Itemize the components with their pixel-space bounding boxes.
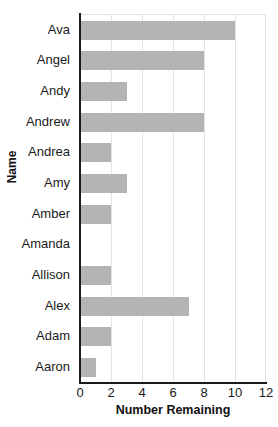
x-axis-tick-label: 8	[200, 385, 207, 400]
bar-row	[80, 322, 266, 353]
bar-row	[80, 352, 266, 383]
y-axis-tick-label: Alex	[0, 290, 76, 321]
x-axis-tick-label: 12	[259, 385, 273, 400]
bar-row	[80, 15, 266, 46]
plot-area	[80, 14, 266, 382]
bar-chart: Name AvaAngelAndyAndrewAndreaAmyAmberAma…	[0, 0, 278, 427]
bar-row	[80, 76, 266, 107]
bar	[80, 266, 111, 285]
bar-rows	[80, 15, 266, 383]
x-axis-line	[79, 382, 267, 384]
bar	[80, 297, 189, 316]
bar-row	[80, 199, 266, 230]
y-axis-tick-label: Amy	[0, 167, 76, 198]
x-axis-tick-label: 4	[138, 385, 145, 400]
bar	[80, 174, 127, 193]
bar	[80, 205, 111, 224]
y-axis-tick-label: Andy	[0, 75, 76, 106]
bar-row	[80, 260, 266, 291]
bar-row	[80, 138, 266, 169]
x-axis-tick-label: 0	[76, 385, 83, 400]
bar	[80, 51, 204, 70]
y-axis-tick-label: Ava	[0, 14, 76, 45]
bar	[80, 143, 111, 162]
bar-row	[80, 46, 266, 77]
y-axis-tick-label: Andrew	[0, 106, 76, 137]
y-axis-tick-labels: AvaAngelAndyAndrewAndreaAmyAmberAmandaAl…	[0, 14, 76, 382]
y-axis-tick-label: Aaron	[0, 351, 76, 382]
bar	[80, 21, 235, 40]
y-axis-tick-label: Amanda	[0, 229, 76, 260]
x-axis-title: Number Remaining	[80, 403, 266, 417]
bar-row	[80, 168, 266, 199]
y-axis-tick-label: Angel	[0, 45, 76, 76]
bar	[80, 327, 111, 346]
x-axis-tick-labels: 024681012	[80, 385, 266, 403]
x-axis-tick-label: 2	[107, 385, 114, 400]
bar-row	[80, 230, 266, 261]
y-axis-tick-label: Amber	[0, 198, 76, 229]
bar-row	[80, 291, 266, 322]
y-axis-tick-label: Allison	[0, 259, 76, 290]
bar	[80, 113, 204, 132]
y-axis-tick-label: Adam	[0, 321, 76, 352]
y-axis-line	[79, 13, 81, 383]
bar-row	[80, 107, 266, 138]
y-axis-tick-label: Andrea	[0, 137, 76, 168]
bar	[80, 358, 96, 377]
bar	[80, 82, 127, 101]
x-axis-tick-label: 10	[228, 385, 242, 400]
x-axis-tick-label: 6	[169, 385, 176, 400]
